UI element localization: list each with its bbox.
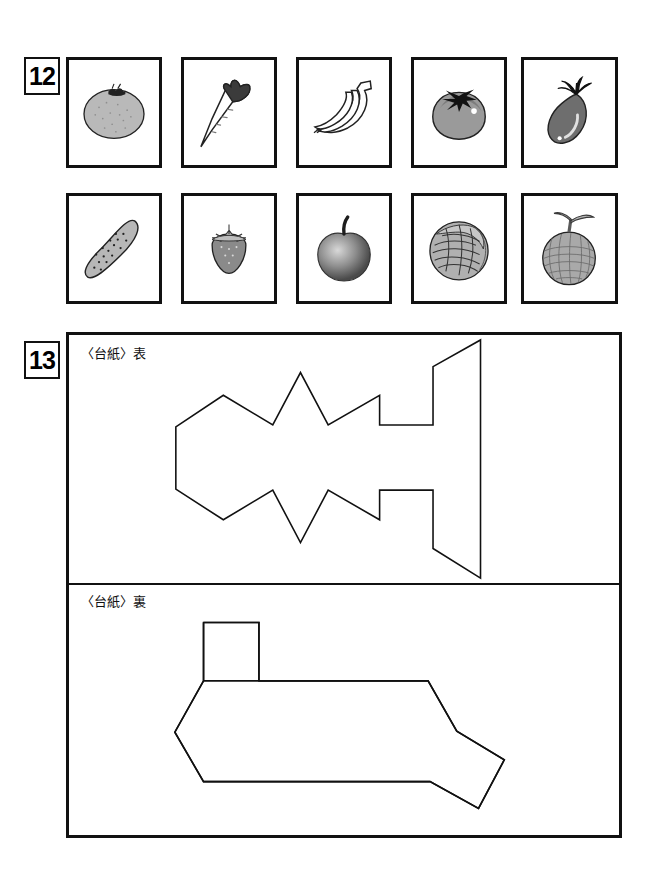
worksheet-page: 12 bbox=[0, 0, 650, 890]
bananas-icon bbox=[299, 60, 389, 165]
carrot-icon bbox=[184, 60, 274, 165]
cucumber-icon bbox=[69, 196, 159, 301]
orange-icon bbox=[69, 60, 159, 165]
picture-card-tomato[interactable] bbox=[411, 57, 507, 168]
picture-card-cucumber[interactable] bbox=[66, 193, 162, 304]
melon-icon bbox=[524, 196, 615, 301]
panel-label-back: 〈台紙〉裏 bbox=[81, 591, 146, 610]
stepped-hexagon-outline-closed bbox=[175, 623, 504, 809]
picture-card-cabbage[interactable] bbox=[411, 193, 507, 304]
picture-card-apple[interactable] bbox=[296, 193, 392, 304]
picture-card-melon[interactable] bbox=[521, 193, 618, 304]
picture-card-carrot[interactable] bbox=[181, 57, 277, 168]
jagged-arrow-outline bbox=[176, 340, 481, 578]
question-number-13: 13 bbox=[24, 341, 60, 379]
eggplant-icon bbox=[524, 60, 615, 165]
picture-card-eggplant[interactable] bbox=[521, 57, 618, 168]
picture-card-strawberry[interactable] bbox=[181, 193, 277, 304]
cabbage-icon bbox=[414, 196, 504, 301]
picture-card-orange[interactable] bbox=[66, 57, 162, 168]
question-13-frame: 〈台紙〉表 〈台紙〉裏 bbox=[66, 332, 622, 838]
question-number-12: 12 bbox=[24, 57, 60, 95]
apple-icon bbox=[299, 196, 389, 301]
tomato-icon bbox=[414, 60, 504, 165]
panel-divider bbox=[69, 583, 619, 585]
picture-card-bananas[interactable] bbox=[296, 57, 392, 168]
stepped-hexagon-outline bbox=[175, 623, 504, 809]
question-13-shapes bbox=[69, 335, 619, 835]
strawberry-icon bbox=[184, 196, 274, 301]
panel-label-front: 〈台紙〉表 bbox=[81, 343, 146, 362]
